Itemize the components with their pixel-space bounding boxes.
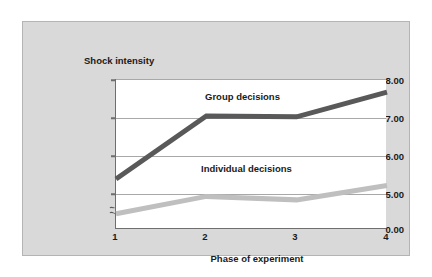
- series-label-individual-decisions: Individual decisions: [201, 163, 292, 174]
- x-axis-title-wrapper: Phase of experiment: [23, 253, 432, 264]
- series-label-group-decisions: Group decisions: [205, 91, 280, 102]
- y-axis-title: Shock intensity: [84, 55, 154, 66]
- figure-container: Shock intensity 8.00 7.00 6.00 5.00 0.00: [0, 0, 432, 277]
- x-tick-label-3: 3: [292, 231, 297, 242]
- x-tick-label-4: 4: [383, 231, 388, 242]
- x-axis-title: Phase of experiment: [211, 253, 304, 264]
- line-individual-decisions: [116, 186, 387, 214]
- x-tick-label-1: 1: [112, 231, 117, 242]
- x-tick-label-2: 2: [202, 231, 207, 242]
- chart-card: Shock intensity 8.00 7.00 6.00 5.00 0.00: [22, 21, 410, 256]
